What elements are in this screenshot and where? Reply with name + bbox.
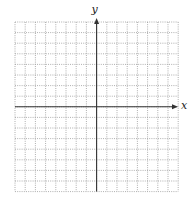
x-axis-arrow-icon [172,104,178,109]
coordinate-grid [0,0,192,203]
y-axis-arrow-icon [94,18,99,24]
y-axis-label: y [92,4,98,15]
x-axis-label: x [181,100,187,111]
